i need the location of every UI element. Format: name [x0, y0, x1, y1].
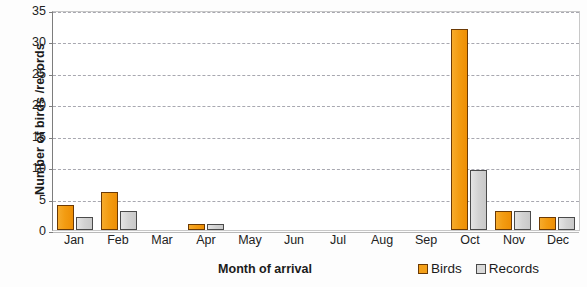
plot-area — [52, 11, 580, 231]
y-tick-label: 20 — [8, 98, 46, 112]
chart-legend: BirdsRecords — [418, 261, 539, 276]
x-tick-label: Apr — [184, 233, 228, 253]
x-tick-label: Sep — [404, 233, 448, 253]
month-bar-group — [491, 12, 535, 230]
bar-birds-apr — [188, 224, 205, 230]
bar-records-apr — [207, 224, 224, 230]
x-tick-label: Feb — [96, 233, 140, 253]
x-tick-label: Aug — [360, 233, 404, 253]
month-bar-group — [360, 12, 404, 230]
x-tick-label: May — [228, 233, 272, 253]
legend-item-birds[interactable]: Birds — [418, 261, 462, 276]
legend-swatch-icon — [476, 264, 486, 274]
month-bar-group — [316, 12, 360, 230]
legend-swatch-icon — [418, 264, 428, 274]
y-tick-label: 35 — [8, 4, 46, 18]
month-bar-group — [447, 12, 491, 230]
bar-birds-nov — [495, 211, 512, 230]
legend-label: Birds — [431, 261, 462, 276]
legend-label: Records — [489, 261, 539, 276]
bar-records-dec — [558, 217, 575, 230]
bar-birds-jan — [57, 205, 74, 230]
bar-records-nov — [514, 211, 531, 230]
x-tick-label: Jun — [272, 233, 316, 253]
bar-birds-dec — [539, 217, 556, 230]
bar-birds-oct — [451, 29, 468, 230]
month-bar-group — [535, 12, 579, 230]
month-bar-group — [53, 12, 97, 230]
bar-birds-feb — [101, 192, 118, 230]
month-bar-group — [184, 12, 228, 230]
x-tick-label: Nov — [492, 233, 536, 253]
bar-records-oct — [470, 170, 487, 230]
x-axis-tick-labels: JanFebMarAprMayJunJulAugSepOctNovDec — [52, 233, 580, 253]
month-bar-group — [272, 12, 316, 230]
x-axis-title: Month of arrival — [180, 262, 350, 276]
y-tick-label: 15 — [8, 130, 46, 144]
x-tick-label: Mar — [140, 233, 184, 253]
x-tick-label: Dec — [536, 233, 580, 253]
bar-chart: Number of birds /records 05101520253035 … — [0, 0, 587, 287]
month-bar-group — [97, 12, 141, 230]
y-tick-label: 25 — [8, 67, 46, 81]
y-tick-label: 0 — [8, 224, 46, 238]
month-bar-group — [404, 12, 448, 230]
x-tick-label: Jul — [316, 233, 360, 253]
bar-records-jan — [76, 217, 93, 230]
y-tick-label: 5 — [8, 193, 46, 207]
x-tick-label: Oct — [448, 233, 492, 253]
bars-layer — [53, 12, 579, 230]
y-tick-label: 10 — [8, 161, 46, 175]
y-axis-tick-labels: 05101520253035 — [8, 0, 50, 231]
bar-records-feb — [120, 211, 137, 230]
month-bar-group — [141, 12, 185, 230]
month-bar-group — [228, 12, 272, 230]
x-tick-label: Jan — [52, 233, 96, 253]
legend-item-records[interactable]: Records — [476, 261, 539, 276]
y-tick-label: 30 — [8, 35, 46, 49]
